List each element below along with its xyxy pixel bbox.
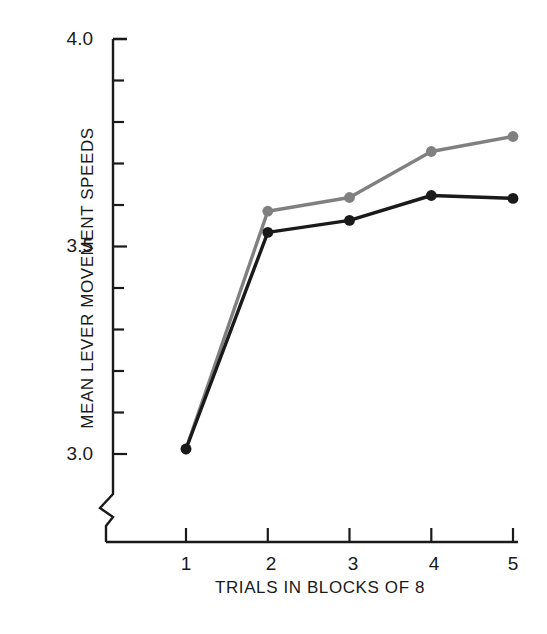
y-axis-ticks — [113, 39, 127, 454]
data-point-marker — [344, 215, 355, 226]
data-point-marker — [262, 206, 273, 217]
data-point-marker — [426, 190, 437, 201]
data-point-marker — [426, 146, 437, 157]
plot-canvas — [0, 0, 547, 634]
data-point-marker — [508, 193, 519, 204]
data-point-marker — [344, 192, 355, 203]
data-point-marker — [262, 227, 273, 238]
series-gray-series — [181, 131, 519, 454]
line-chart-figure: MEAN LEVER MOVEMENT SPEEDS TRIALS IN BLO… — [0, 0, 547, 634]
data-series-layer — [181, 131, 519, 454]
data-point-marker — [181, 444, 192, 455]
series-line — [186, 196, 513, 450]
axis-break-marker — [100, 490, 113, 542]
data-point-marker — [508, 131, 519, 142]
series-line — [186, 137, 513, 450]
x-axis-ticks — [186, 528, 513, 542]
